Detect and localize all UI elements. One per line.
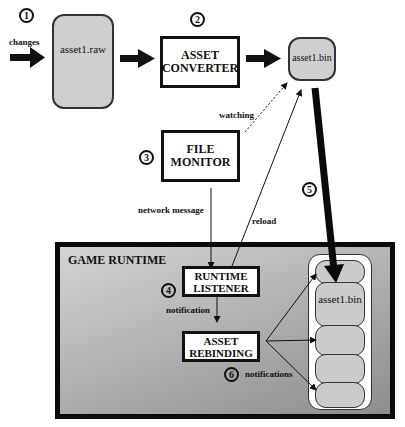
step-1-badge: 1 (19, 8, 34, 23)
asset-rebinding-line1: ASSET (189, 335, 253, 347)
raw-to-converter-arrow-icon (120, 49, 155, 68)
step-2-badge: 2 (190, 12, 205, 27)
asset-rebinding-line2: REBINDING (189, 347, 253, 359)
step-6-badge: 6 (224, 367, 239, 382)
converter-to-bin-arrow-icon (246, 49, 281, 68)
network-message-label: network message (138, 205, 204, 215)
notify-slot-1-arrow-icon (266, 274, 316, 341)
step-5-badge: 5 (302, 182, 317, 197)
asset-bin-node: asset1.bin (288, 37, 336, 81)
watching-arrow-icon (245, 83, 287, 132)
notify-slot-5-arrow-icon (266, 341, 316, 390)
load-asset-arrow-icon (315, 88, 334, 270)
runtime-listener-line1: RUNTIME (193, 270, 249, 282)
reload-label: reload (252, 216, 276, 226)
file-monitor-line2: MONITOR (171, 156, 231, 169)
asset-rebinding-node: ASSET REBINDING (182, 331, 260, 362)
notifications-label: notifications (245, 369, 293, 379)
notify-slot-3-arrow-icon (266, 340, 316, 341)
file-monitor-node: FILE MONITOR (161, 130, 240, 182)
asset-bin-label: asset1.bin (292, 52, 332, 63)
changes-arrow-icon (10, 47, 45, 68)
asset-converter-node: ASSET CONVERTER (160, 36, 240, 88)
asset-raw-node: asset1.raw (52, 14, 114, 109)
runtime-listener-line2: LISTENER (193, 282, 249, 294)
watching-label: watching (219, 110, 254, 120)
runtime-listener-node: RUNTIME LISTENER (182, 266, 260, 297)
changes-label: changes (9, 37, 40, 47)
step-3-badge: 3 (139, 150, 154, 165)
asset-converter-line2: CONVERTER (162, 62, 238, 75)
notification-label: notification (166, 305, 210, 315)
step-4-badge: 4 (161, 283, 176, 298)
asset-raw-label: asset1.raw (60, 43, 106, 55)
